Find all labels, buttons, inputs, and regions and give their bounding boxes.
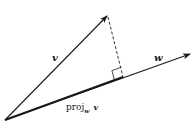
label-v: v (52, 52, 58, 63)
label-proj: projwv (66, 102, 98, 114)
label-proj-arg: v (93, 102, 98, 112)
label-proj-main: proj (66, 102, 84, 112)
vector-v-arrow (5, 16, 107, 120)
label-w: w (154, 52, 163, 63)
perpendicular-dashed-line (108, 17, 123, 77)
diagram-svg: v w projwv (0, 0, 194, 130)
projection-diagram: v w projwv (0, 0, 194, 130)
label-proj-subscript: w (84, 107, 90, 114)
